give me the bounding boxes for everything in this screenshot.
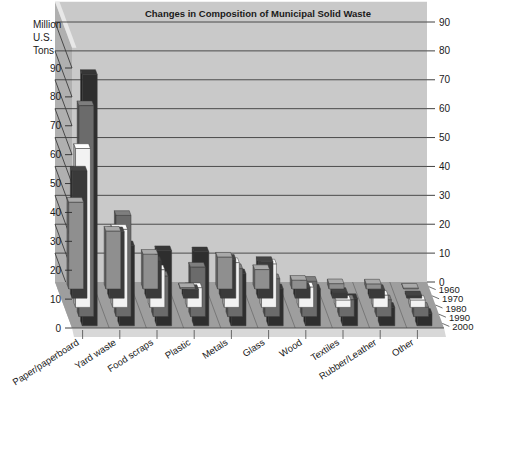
bar-top <box>81 70 98 75</box>
bar-front <box>255 270 270 289</box>
bar-front <box>414 307 429 316</box>
bar-top <box>253 265 270 270</box>
category-label: Wood <box>277 336 304 359</box>
bar-top <box>104 226 121 231</box>
bar-top <box>155 246 172 251</box>
y-tick-label-right: 60 <box>439 103 451 114</box>
chart-title: Changes in Composition of Municipal Soli… <box>145 8 371 19</box>
bar-front <box>366 284 381 289</box>
y-axis-caption-line3: Tons <box>33 45 54 56</box>
y-axis-caption-line2: U.S. <box>33 32 52 43</box>
y-tick-label-left: 80 <box>50 91 62 102</box>
category-label: Paper/paperboard <box>10 336 80 387</box>
bar-top <box>405 291 422 296</box>
bar-front <box>329 284 344 289</box>
bar-1960-glass <box>253 265 270 289</box>
bar-1960-plastic <box>179 283 196 289</box>
y-tick-label-right: 90 <box>439 17 451 28</box>
bar-1960-wood <box>290 276 307 289</box>
category-label: Metals <box>200 336 230 361</box>
bar-front <box>69 202 84 289</box>
bar-top <box>189 262 206 267</box>
category-label: Other <box>390 336 416 358</box>
y-axis-caption-line1: Million <box>33 19 61 30</box>
bar-front <box>407 296 422 298</box>
bar-top <box>365 279 382 284</box>
bar-front <box>404 288 419 289</box>
bar-top <box>179 283 196 288</box>
year-label-2000: 2000 <box>452 321 473 332</box>
bar-top <box>216 252 233 257</box>
y-tick-label-left: 90 <box>50 63 62 74</box>
bar-top <box>402 283 419 288</box>
year-tick <box>439 314 446 317</box>
bar-front <box>143 254 158 289</box>
bar-top <box>327 279 344 284</box>
x-axis-category-labels: Paper/paperboardYard wasteFood scrapsPla… <box>10 330 417 387</box>
y-tick-label-right: 70 <box>439 74 451 85</box>
y-tick-label-left: 0 <box>55 323 61 334</box>
year-tick <box>429 287 436 290</box>
bar-top <box>290 276 307 281</box>
bar-side <box>104 226 106 289</box>
bar-front <box>370 290 385 299</box>
y-tick-label-right: 40 <box>439 161 451 172</box>
y-tick-label-left: 60 <box>50 149 62 160</box>
bar-1960-metals <box>216 252 233 289</box>
bar-top <box>77 101 94 106</box>
bar-1960-yard-waste <box>104 226 121 289</box>
bar-top <box>256 257 273 262</box>
bar-front <box>292 280 307 289</box>
y-tick-label-left: 20 <box>50 265 62 276</box>
bar-top <box>74 144 91 149</box>
bar-front <box>184 290 199 299</box>
chart-canvas: 0102030405060708090 0102030405060708090 … <box>0 0 516 450</box>
y-tick-label-left: 50 <box>50 178 62 189</box>
bar-1960-textiles <box>327 279 344 289</box>
y-tick-label-left: 10 <box>50 294 62 305</box>
bar-1960-paper-paperboard <box>67 198 84 289</box>
bar-front <box>180 288 195 289</box>
y-tick-label-right: 10 <box>439 248 451 259</box>
bar-top <box>114 211 131 216</box>
year-tick <box>432 296 439 299</box>
bar-top <box>70 166 87 171</box>
category-label: Plastic <box>163 336 193 361</box>
y-tick-label-right: 80 <box>439 45 451 56</box>
bar-front <box>106 231 121 289</box>
y-tick-label-left: 40 <box>50 207 62 218</box>
y-tick-label-left: 70 <box>50 120 62 131</box>
bar-side <box>67 198 69 289</box>
y-tick-label-right: 50 <box>439 132 451 143</box>
y-tick-label-right: 20 <box>439 219 451 230</box>
bar-chart-3d: 0102030405060708090 0102030405060708090 … <box>0 0 516 450</box>
y-tick-label-left: 30 <box>50 236 62 247</box>
bar-top <box>67 198 84 203</box>
y-tick-label-right: 30 <box>439 190 451 201</box>
bar-top <box>192 247 209 252</box>
bar-1960-rubber-leather <box>365 279 382 289</box>
bar-1960-other <box>402 283 419 289</box>
bar-front <box>410 300 425 307</box>
floor-front-skirt <box>72 328 446 337</box>
bar-side <box>141 250 143 289</box>
year-tick <box>436 305 443 308</box>
bar-1960-food-scraps <box>141 250 158 289</box>
bar-side <box>216 252 218 289</box>
bar-1970-other <box>405 291 422 298</box>
bar-top <box>141 250 158 255</box>
bar-front <box>218 257 233 289</box>
year-tick <box>442 323 449 326</box>
category-label: Glass <box>240 336 267 359</box>
bar-front <box>333 292 348 298</box>
bar-front <box>336 300 351 307</box>
y-axis-right: 0102030405060708090 <box>427 17 451 288</box>
